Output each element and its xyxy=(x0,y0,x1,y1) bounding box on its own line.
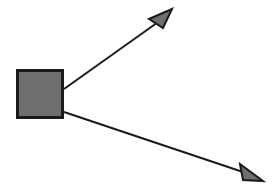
diagram-canvas xyxy=(0,0,278,194)
diagram-svg xyxy=(0,0,278,194)
source-node-square xyxy=(18,71,63,118)
